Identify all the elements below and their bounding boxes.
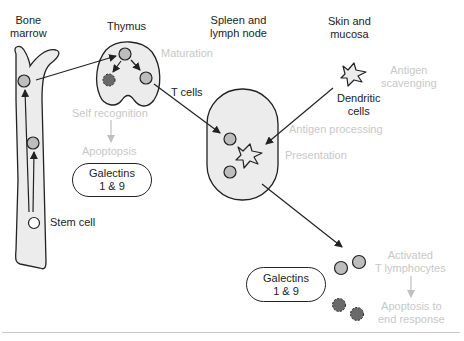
header-skin-line2: mucosa bbox=[328, 28, 371, 41]
spleen-t-cell-upper bbox=[224, 133, 236, 145]
header-skin-mucosa: Skin and mucosa bbox=[328, 15, 371, 41]
label-stem-cell: Stem cell bbox=[50, 216, 95, 229]
label-dendritic-line2: cells bbox=[337, 105, 380, 118]
process-activated-line2: T lymphocytes bbox=[375, 262, 446, 275]
galectins-box-thymus-line2: 1 & 9 bbox=[99, 180, 125, 193]
bottom-divider bbox=[2, 332, 460, 333]
progenitor-cell-lower bbox=[27, 137, 39, 149]
process-maturation: Maturation bbox=[161, 47, 213, 60]
process-presentation: Presentation bbox=[285, 149, 347, 162]
galectins-box-periphery-line1: Galectins bbox=[263, 272, 309, 285]
header-spleen-lymph-node: Spleen and lymph node bbox=[210, 14, 267, 40]
label-dendritic-cells: Dendritic cells bbox=[337, 92, 380, 118]
process-antigen-processing: Antigen processing bbox=[289, 123, 383, 136]
header-bone-marrow-line1: Bone bbox=[10, 14, 47, 27]
label-t-cells: T cells bbox=[171, 86, 203, 99]
diagram-graphics bbox=[0, 0, 464, 341]
header-spleen-line1: Spleen and bbox=[210, 14, 267, 27]
process-self-recognition: Self recognition bbox=[72, 107, 148, 120]
apoptotic-t-cell-2 bbox=[351, 308, 364, 321]
progenitor-cell-upper bbox=[18, 75, 30, 87]
header-bone-marrow-line2: marrow bbox=[10, 27, 47, 40]
process-apoptosis-line2: end response bbox=[378, 313, 445, 326]
galectins-box-thymus: Galectins 1 & 9 bbox=[72, 163, 152, 197]
process-antigen-scavenging-line2: scavenging bbox=[381, 77, 437, 90]
process-apoptosis-line1: Apoptosis to bbox=[378, 300, 445, 313]
t-cell-lifecycle-diagram: Bone marrow Thymus Spleen and lymph node… bbox=[0, 0, 464, 341]
dendritic-cell-skin-icon bbox=[341, 63, 366, 86]
process-apoptopsis: Apoptopsis bbox=[82, 145, 136, 158]
thymocyte-cell-top bbox=[119, 48, 131, 60]
spleen-t-cell-lower bbox=[224, 166, 236, 178]
galectins-box-periphery-line2: 1 & 9 bbox=[273, 285, 299, 298]
label-dendritic-line1: Dendritic bbox=[337, 92, 380, 105]
header-thymus: Thymus bbox=[107, 20, 146, 33]
thymocyte-apoptotic-cell bbox=[103, 74, 115, 86]
spleen-lymph-node-shape bbox=[207, 89, 278, 200]
apoptotic-t-cell-1 bbox=[333, 299, 346, 312]
galectins-box-periphery: Galectins 1 & 9 bbox=[246, 267, 326, 302]
process-activated-t-lymphocytes: Activated T lymphocytes bbox=[375, 249, 446, 275]
stem-cell bbox=[29, 218, 40, 229]
process-antigen-scavenging: Antigen scavenging bbox=[381, 64, 437, 90]
thymocyte-mature-cell bbox=[140, 72, 152, 84]
activated-t-cell-2 bbox=[353, 256, 366, 269]
process-antigen-scavenging-line1: Antigen bbox=[381, 64, 437, 77]
activated-t-cell-1 bbox=[335, 262, 348, 275]
galectins-box-thymus-line1: Galectins bbox=[89, 167, 135, 180]
arrow-spleen-to-activation bbox=[262, 184, 342, 247]
process-apoptosis-end-response: Apoptosis to end response bbox=[378, 300, 445, 326]
header-skin-line1: Skin and bbox=[328, 15, 371, 28]
process-activated-line1: Activated bbox=[375, 249, 446, 262]
header-bone-marrow: Bone marrow bbox=[10, 14, 47, 40]
header-spleen-line2: lymph node bbox=[210, 27, 267, 40]
